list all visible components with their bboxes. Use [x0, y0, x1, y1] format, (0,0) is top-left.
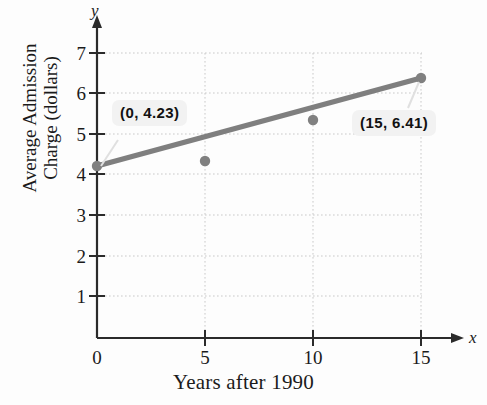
data-point-15 [416, 73, 426, 83]
x-axis-arrow [451, 333, 464, 343]
vertical-gridlines [205, 53, 421, 338]
x-axis-title: Years after 1990 [0, 370, 487, 395]
y-axis-title-line-1: Average Admission [19, 44, 40, 193]
y-tick-label-1: 1 [62, 287, 86, 306]
y-axis-letter: y [91, 2, 99, 19]
chart-figure: 7 6 5 4 3 2 1 0 5 10 15 y x Average Admi… [0, 0, 487, 405]
x-axis-letter: x [469, 329, 477, 346]
y-tick-label-2: 2 [62, 247, 86, 266]
x-tick-label-5: 5 [185, 348, 225, 367]
y-axis-title: Average Admission Charge (dollars) [12, 8, 68, 228]
data-point-5 [200, 156, 210, 166]
y-axis-title-line-2: Charge (dollars) [40, 56, 61, 180]
x-tick-label-0: 0 [77, 348, 117, 367]
data-point-0 [92, 161, 102, 171]
annotation-point-15: (15, 6.41) [352, 110, 436, 136]
y-axis [92, 15, 102, 338]
x-tick-label-10: 10 [293, 348, 333, 367]
data-point-10 [308, 115, 318, 125]
x-axis [97, 333, 464, 343]
x-tick-label-15: 15 [401, 348, 441, 367]
annotation-point-0: (0, 4.23) [112, 100, 187, 126]
